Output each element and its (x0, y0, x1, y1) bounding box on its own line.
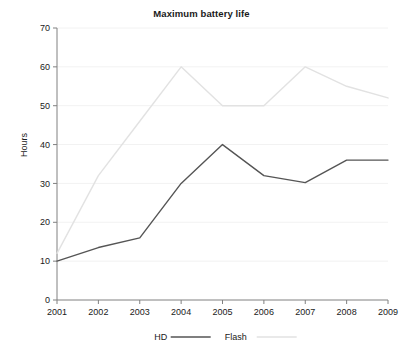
data-series (57, 67, 388, 261)
x-tick-label: 2002 (88, 307, 108, 317)
y-tick-label: 60 (40, 62, 50, 72)
plot-area: 010203040506070 200120022003200420052006… (0, 0, 403, 358)
series-line-flash (57, 67, 388, 254)
y-tick-label: 40 (40, 140, 50, 150)
y-tick-label: 10 (40, 256, 50, 266)
x-tick-label: 2004 (171, 307, 191, 317)
x-axis-ticks: 200120022003200420052006200720082009 (47, 300, 398, 317)
x-tick-label: 2009 (378, 307, 398, 317)
x-tick-label: 2001 (47, 307, 67, 317)
chart-legend: HDFlash (154, 332, 296, 342)
legend-label-hd[interactable]: HD (154, 332, 167, 342)
chart-container: Maximum battery life Hours 0102030405060… (0, 0, 403, 358)
legend-label-flash[interactable]: Flash (225, 332, 247, 342)
x-tick-label: 2008 (337, 307, 357, 317)
x-tick-label: 2007 (295, 307, 315, 317)
x-tick-label: 2006 (254, 307, 274, 317)
y-tick-label: 20 (40, 217, 50, 227)
y-tick-label: 50 (40, 101, 50, 111)
x-tick-label: 2005 (212, 307, 232, 317)
y-tick-label: 30 (40, 179, 50, 189)
series-line-hd (57, 145, 388, 262)
y-tick-label: 0 (45, 295, 50, 305)
x-tick-label: 2003 (130, 307, 150, 317)
y-tick-label: 70 (40, 23, 50, 33)
y-axis-ticks: 010203040506070 (40, 23, 57, 305)
